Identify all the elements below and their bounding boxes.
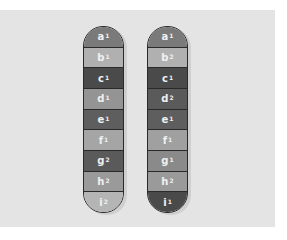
gene-segment: c1 xyxy=(84,68,123,89)
gene-segment: f1 xyxy=(84,130,123,151)
gene-segment: a1 xyxy=(84,27,123,48)
gene-segment: a1 xyxy=(148,27,187,48)
gene-segment: e1 xyxy=(148,110,187,131)
diagram-panel xyxy=(0,10,275,227)
gene-segment: h2 xyxy=(148,172,187,193)
gene-segment: e1 xyxy=(84,110,123,131)
gene-segment: b1 xyxy=(84,48,123,69)
gene-segment: c1 xyxy=(148,68,187,89)
gene-segment: h2 xyxy=(84,172,123,193)
gene-segment: g1 xyxy=(148,151,187,172)
gene-segment: d2 xyxy=(148,89,187,110)
gene-segment: f1 xyxy=(148,130,187,151)
gene-segment: b2 xyxy=(148,48,187,69)
gene-segment: g2 xyxy=(84,151,123,172)
chromosome-left: a1 b1 c1 d1 e1 f1 g2 h2 i2 xyxy=(83,26,124,213)
gene-segment: d1 xyxy=(84,89,123,110)
chromosome-right: a1 b2 c1 d2 e1 f1 g1 h2 i1 xyxy=(147,26,188,213)
